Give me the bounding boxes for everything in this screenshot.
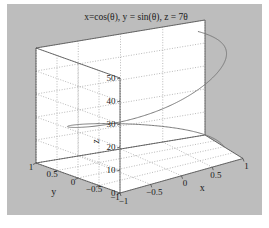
y-axis-label: y [51,186,56,197]
y-tick-label: 0.5 [46,169,58,179]
z-tick-label: 40 [107,96,117,106]
x-tick-label: 1 [244,161,249,171]
grid-line [75,178,78,180]
plot-title: x=cos(θ), y = sin(θ), z = 7θ [84,12,188,23]
z-axis-label: z [90,138,101,143]
x-tick-label: 0.5 [210,170,222,180]
x-axis-label: x [200,182,205,193]
plot-3d-canvas[interactable]: 0102030405010.50−0.5−1−1−0.500.51 x y z … [0,0,269,228]
y-tick-label: 0 [71,177,76,187]
grid-line [33,163,36,165]
z-tick-label: 30 [107,119,117,129]
figure-window: 0102030405010.50−0.5−1−1−0.500.51 x y z … [0,0,269,228]
x-tick-label: 0 [183,178,188,188]
x-tick-label: −1 [119,196,129,206]
y-tick-label: −0.5 [86,184,103,194]
x-tick-label: −0.5 [146,187,163,197]
y-tick-label: 1 [29,162,34,172]
z-tick-label: 20 [107,142,117,152]
z-tick-label: 50 [107,73,117,83]
z-tick-label: 10 [107,165,117,175]
